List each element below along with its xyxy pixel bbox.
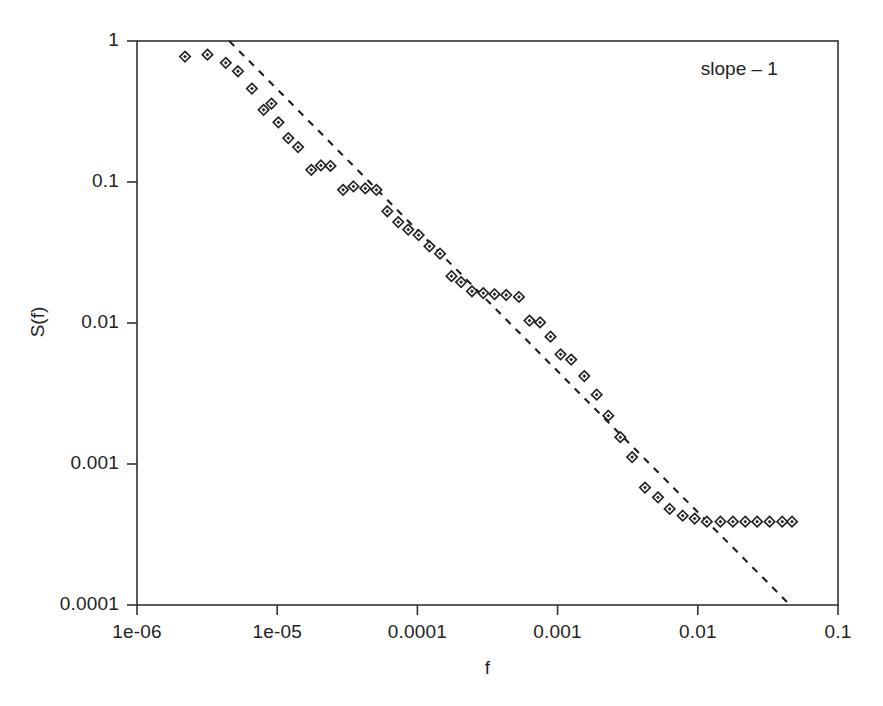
x-tick-label: 0.0001: [357, 621, 477, 643]
x-axis-tick-marks: [137, 605, 838, 615]
plot-canvas: [0, 0, 883, 706]
x-tick-label: 0.001: [498, 621, 618, 643]
x-axis-title: f: [458, 657, 518, 679]
x-tick-label: 0.1: [778, 621, 883, 643]
slope-annotation-label: slope – 1: [701, 58, 778, 80]
data-point-series: [180, 49, 797, 526]
x-tick-label: 0.01: [638, 621, 758, 643]
y-tick-label: 0.001: [0, 452, 119, 474]
x-tick-label: 1e-05: [217, 621, 337, 643]
chart-figure: slope – 1 f S(f) 10.10.010.0010.0001 1e-…: [0, 0, 883, 706]
x-tick-label: 1e-06: [77, 621, 197, 643]
y-tick-label: 0.01: [0, 311, 119, 333]
y-tick-label: 1: [0, 29, 119, 51]
y-tick-label: 0.0001: [0, 593, 119, 615]
y-tick-label: 0.1: [0, 170, 119, 192]
y-axis-tick-marks: [127, 41, 137, 605]
